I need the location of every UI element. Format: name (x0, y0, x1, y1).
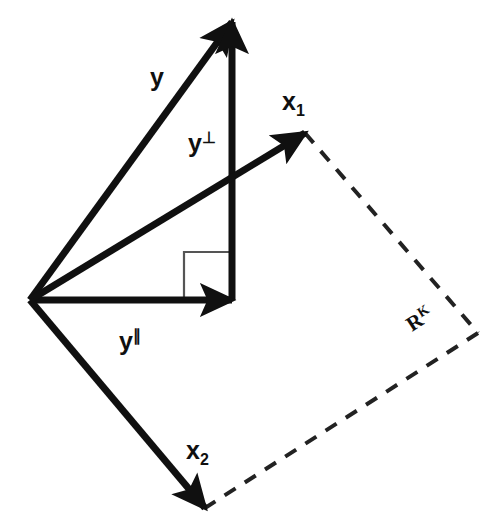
label-space-rk: RK (402, 302, 437, 336)
label-x1: x1 (282, 87, 305, 119)
diagram-canvas: y y⊥ y∥ x1 x2 RK (0, 0, 496, 527)
vector-y-arrow (30, 22, 232, 300)
right-angle-marker (184, 252, 232, 300)
dashed-edge-corner-to-x2 (205, 333, 478, 508)
dashed-edge-x1-to-corner (305, 133, 478, 333)
label-y-parallel: y∥ (119, 327, 141, 355)
vector-x2-arrow (30, 300, 205, 508)
vector-x1-arrow (30, 133, 305, 300)
dashed-span-region (205, 133, 478, 508)
vector-projection-diagram: y y⊥ y∥ x1 x2 RK (0, 0, 496, 527)
label-y: y (150, 63, 164, 91)
label-x2: x2 (186, 436, 209, 468)
label-y-perp: y⊥ (188, 129, 216, 157)
